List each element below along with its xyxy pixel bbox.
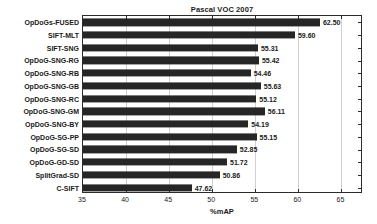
category-label: OpDoG-SNG-BY [25,121,79,128]
bar-value-label: 55.63 [261,82,282,89]
bar-row: OpDoG-SNG-RC55.12 [83,92,361,105]
bar [83,57,259,64]
bar [83,146,237,153]
bar-row: C-SIFT47.62 [83,181,361,194]
bar-row: OpDoG-SG-SD52.85 [83,143,361,156]
bar-value-label: 62.50 [320,19,341,26]
x-tick-label: 40 [121,196,129,203]
bar-value-label: 55.42 [259,57,280,64]
bar-row: SIFT-MLT59.60 [83,29,361,42]
bar-row: OpDoG-SNG-RG55.42 [83,54,361,67]
bar [83,120,248,127]
bar [83,159,227,166]
bar [83,108,265,115]
bar-value-label: 54.46 [251,70,272,77]
category-label: OpDoG-SNG-RB [25,70,79,77]
bar-row: SIFT-SNG55.31 [83,41,361,54]
category-label: SplitGrad-SD [35,171,79,178]
bar-value-label: 56.11 [265,108,285,115]
chart-title: Pascal VOC 2007 [82,5,362,14]
bar [83,95,256,102]
bar [83,133,257,140]
bar-row: SplitGrad-SD50.86 [83,169,361,182]
category-label: C-SIFT [56,184,79,191]
bar-value-label: 54.19 [248,121,269,128]
x-tick-label: 35 [78,196,86,203]
category-label: SIFT-SNG [47,44,79,51]
bar-value-label: 51.72 [227,159,248,166]
plot-area: OpDoGs-FUSED62.50SIFT-MLT59.60SIFT-SNG55… [82,15,362,193]
bar-row: OpDoG-SNG-GM56.11 [83,105,361,118]
bar [83,171,220,178]
bar-value-label: 59.60 [295,32,316,39]
bar-row: OpDoG-SNG-RB54.46 [83,67,361,80]
category-label: OpDoG-SG-PP [30,133,79,140]
category-label: OpDoG-SNG-GB [24,82,79,89]
category-label: SIFT-MLT [48,32,79,39]
bar-value-label: 55.12 [256,95,277,102]
x-tick-label: 50 [207,196,215,203]
x-tick-label: 55 [250,196,258,203]
x-tick-label: 45 [164,196,172,203]
x-tick-label: 60 [293,196,301,203]
bar-value-label: 55.31 [258,44,279,51]
bar [83,184,192,191]
bar [83,82,261,89]
chart-figure: Pascal VOC 2007 OpDoGs-FUSED62.50SIFT-ML… [0,0,377,224]
bar-row: OpDoG-GD-SD51.72 [83,156,361,169]
category-label: OpDoG-SNG-GM [23,108,79,115]
bar [83,19,320,26]
bar [83,31,295,38]
bar-value-label: 55.15 [257,133,278,140]
category-label: OpDoGs-FUSED [25,19,79,26]
bar [83,44,258,51]
bar-row: OpDoG-SG-PP55.15 [83,130,361,143]
category-label: OpDoG-SG-SD [30,146,79,153]
bar [83,70,251,77]
bar-row: OpDoG-SNG-GB55.63 [83,80,361,93]
bar-row: OpDoG-SNG-BY54.19 [83,118,361,131]
bar-value-label: 50.86 [220,171,241,178]
x-axis-label: %mAP [82,207,362,216]
bar-value-label: 52.85 [237,146,258,153]
bar-value-label: 47.62 [192,184,213,191]
category-label: OpDoG-SNG-RG [24,57,79,64]
category-label: OpDoG-SNG-RC [25,95,79,102]
x-tick-label: 65 [337,196,345,203]
bar-row: OpDoGs-FUSED62.50 [83,16,361,29]
category-label: OpDoG-GD-SD [30,159,79,166]
